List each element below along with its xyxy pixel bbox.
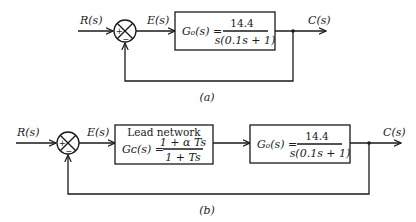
plant-numerator-a: 14.4: [230, 17, 254, 29]
plant-denominator-a: s(0.1s + 1): [215, 34, 276, 47]
input-label-a: R(s): [79, 14, 103, 27]
diagram-b: R(s) + − E(s) Lead network Gᴄ(s) = 1 + α…: [16, 125, 406, 217]
error-label-b: E(s): [86, 126, 109, 139]
plant-block-a: G₀(s) = 14.4 s(0.1s + 1): [175, 12, 275, 50]
compensator-numerator: 1 + α Ts: [160, 136, 207, 149]
plant-denominator-b: s(0.1s + 1): [290, 147, 351, 160]
summing-junction-a: + −: [114, 20, 136, 44]
plant-numerator-b: 14.4: [305, 130, 329, 142]
compensator-lhs: Gᴄ(s) =: [122, 143, 164, 156]
plant-block-b: G₀(s) = 14.4 s(0.1s + 1): [250, 125, 350, 163]
output-label-a: C(s): [308, 14, 331, 27]
output-label-b: C(s): [383, 126, 406, 139]
compensator-denominator: 1 + Ts: [165, 151, 201, 164]
lead-network-block: Lead network Gᴄ(s) = 1 + α Ts 1 + Ts: [115, 125, 213, 164]
input-label-b: R(s): [16, 126, 40, 139]
diagram-a: R(s) + − E(s) G₀(s) = 14.4 s(0.1s + 1) C…: [78, 12, 331, 104]
summing-junction-b: + −: [57, 132, 79, 156]
caption-b: (b): [199, 204, 215, 217]
sum-minus-a: −: [123, 35, 130, 44]
error-label-a: E(s): [146, 14, 169, 27]
block-diagrams: R(s) + − E(s) G₀(s) = 14.4 s(0.1s + 1) C…: [0, 0, 416, 222]
caption-a: (a): [199, 91, 214, 104]
sum-minus-b: −: [66, 147, 73, 156]
